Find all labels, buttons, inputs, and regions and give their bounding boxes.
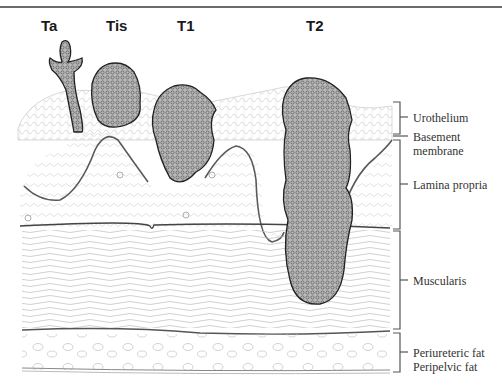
- label-fat: Periureteric fat Peripelvic fat: [413, 346, 485, 374]
- label-muscularis: Muscularis: [413, 274, 466, 288]
- label-urothelium: Urothelium: [413, 111, 468, 125]
- label-lamina-propria: Lamina propria: [413, 178, 487, 192]
- label-basement-membrane: Basement membrane: [413, 130, 464, 158]
- layer-brackets: [0, 0, 502, 391]
